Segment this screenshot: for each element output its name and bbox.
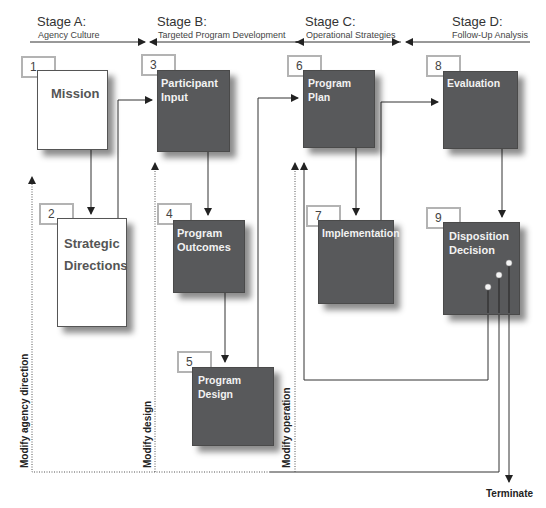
- step-7-label: Implementation: [322, 226, 392, 240]
- step-3-participant-input: Participant Input: [157, 70, 230, 152]
- step-6-program-plan: Program Plan: [303, 70, 375, 148]
- step-1-mission: Mission: [37, 70, 108, 150]
- stage-c-subtitle: Operational Strategies: [306, 30, 396, 40]
- step-2-label: Strategic Directions: [64, 233, 124, 277]
- modify-design-label: Modify design: [142, 401, 153, 468]
- stage-b-title: Stage B:: [157, 14, 207, 29]
- step-9-label: Disposition Decision: [449, 229, 509, 257]
- terminate-label: Terminate: [486, 488, 533, 499]
- step-6-label: Program Plan: [308, 76, 374, 104]
- step-3-label: Participant Input: [161, 76, 223, 104]
- stage-b-subtitle: Targeted Program Development: [158, 30, 286, 40]
- stage-a-title: Stage A:: [37, 14, 86, 29]
- step-4-label: Program Outcomes: [177, 226, 237, 254]
- step-5-program-design: Program Design: [192, 367, 274, 446]
- step-2-strategic-directions: Strategic Directions: [57, 218, 127, 327]
- modify-agency-direction-label: Modify agency direction: [19, 354, 30, 468]
- step-4-program-outcomes: Program Outcomes: [173, 220, 245, 293]
- step-5-label: Program Design: [198, 373, 274, 401]
- stage-a-subtitle: Agency Culture: [38, 30, 100, 40]
- step-8-label: Evaluation: [447, 76, 515, 90]
- step-1-label: Mission: [51, 83, 99, 105]
- stage-c-title: Stage C:: [305, 14, 356, 29]
- step-7-implementation: Implementation: [318, 220, 394, 304]
- step-9-disposition-decision: Disposition Decision: [443, 222, 520, 315]
- step-8-evaluation: Evaluation: [443, 71, 518, 149]
- stage-d-subtitle: Follow-Up Analysis: [452, 30, 528, 40]
- modify-operation-label: Modify operation: [281, 387, 292, 468]
- stage-d-title: Stage D:: [452, 14, 503, 29]
